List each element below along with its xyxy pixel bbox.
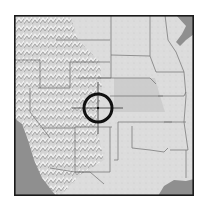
map-canvas[interactable] [14,15,194,196]
relief-map[interactable] [14,15,194,196]
target-center-dot [97,107,99,109]
